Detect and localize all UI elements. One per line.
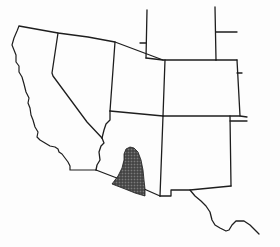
idaho-wyoming-border	[146, 10, 147, 58]
california-coastline	[12, 26, 97, 170]
utah-colorado-border	[163, 60, 165, 116]
colorado-newmexico-border	[163, 116, 247, 117]
california-arizona-border	[96, 138, 104, 170]
nevada-utah-border	[110, 42, 115, 111]
newmexico-mexico-border	[160, 186, 231, 196]
nevada-arizona-border	[102, 111, 110, 138]
southwest-us-map	[0, 0, 280, 247]
rio-grande-border	[190, 190, 259, 234]
map-container	[0, 0, 280, 247]
colorado-east-border	[237, 60, 240, 116]
california-nevada-border	[52, 33, 102, 138]
utah-wyoming-border	[146, 58, 216, 60]
shaded-distribution-range	[112, 147, 145, 196]
newmexico-texas-border	[230, 116, 231, 186]
arizona-newmexico-border	[160, 116, 163, 196]
utah-arizona-border	[110, 111, 163, 116]
wyoming-nebraska-border	[215, 7, 216, 60]
